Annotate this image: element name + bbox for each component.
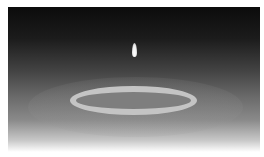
water-droplet [132, 43, 137, 57]
ripple-ring [70, 86, 197, 115]
photo: Grayscale photo of a falling water dropl… [8, 7, 260, 152]
